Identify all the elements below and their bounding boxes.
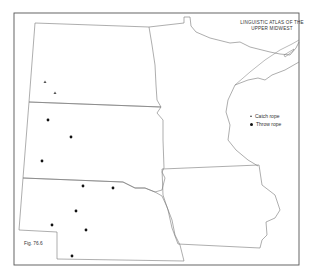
legend-item-throw-rope: Throw rope [250, 120, 281, 128]
legend-label: Catch rope [255, 112, 279, 120]
legend: Catch rope Throw rope [250, 112, 281, 128]
state-minnesota [149, 17, 299, 166]
triangle-marker [54, 92, 57, 95]
state-south-dakota [23, 102, 165, 192]
map-canvas [0, 0, 319, 279]
dot-marker [47, 119, 50, 122]
dot-marker [75, 210, 78, 213]
map-title-line2: UPPER MIDWEST [240, 26, 304, 32]
dot-marker [70, 136, 73, 139]
dot-marker [85, 229, 88, 232]
state-north-dakota [29, 23, 161, 107]
legend-item-catch-rope: Catch rope [250, 112, 281, 120]
dot-marker [82, 185, 85, 188]
dot-marker [41, 160, 44, 163]
catch-rope-markers [44, 81, 57, 95]
isle-royale [284, 49, 294, 57]
triangle-marker [44, 81, 47, 84]
figure-label: Fig. 76.6 [24, 241, 43, 246]
triangle-icon [250, 115, 252, 117]
map-title: LINGUISTIC ATLAS OF THE UPPER MIDWEST [240, 20, 304, 32]
map-frame [14, 13, 299, 265]
state-nebraska [19, 178, 184, 261]
dot-marker [112, 187, 115, 190]
throw-rope-markers [41, 119, 115, 258]
dot-icon [250, 123, 253, 126]
legend-label: Throw rope [256, 120, 281, 128]
dot-marker [51, 224, 54, 227]
state-iowa [162, 165, 280, 248]
dot-marker [71, 255, 74, 258]
